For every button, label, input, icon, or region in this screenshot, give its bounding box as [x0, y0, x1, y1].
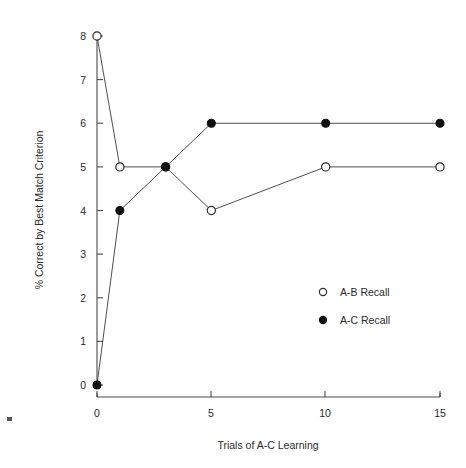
y-tick-label-1: 1 — [80, 335, 86, 347]
y-tick-label-3: 3 — [80, 248, 86, 260]
x-tick-label-0: 0 — [94, 407, 100, 419]
y-tick-label-4: 4 — [80, 205, 86, 217]
x-axis-title: Trials of A-C Learning — [217, 439, 318, 451]
y-axis-title: % Correct by Best Match Criterion — [33, 130, 45, 289]
figure-background — [0, 0, 466, 468]
data-point-marker — [436, 163, 444, 171]
legend-marker-filled-circle — [319, 316, 326, 323]
data-point-marker — [207, 206, 215, 214]
data-point-marker — [93, 32, 101, 40]
y-tick-label-7: 7 — [80, 74, 86, 86]
data-point-marker — [322, 119, 330, 127]
y-tick-label-2: 2 — [80, 292, 86, 304]
data-point-marker — [116, 207, 124, 215]
legend-label-a-c-recall: A-C Recall — [340, 314, 390, 326]
legend-label-a-b-recall: A-B Recall — [340, 286, 390, 298]
y-tick-label-6: 6 — [80, 117, 86, 129]
x-tick-label-15: 15 — [434, 407, 446, 419]
x-tick-label-10: 10 — [319, 407, 331, 419]
y-tick-label-5: 5 — [80, 161, 86, 173]
data-point-marker — [436, 119, 444, 127]
y-tick-label-0: 0 — [80, 379, 86, 391]
scan-speck-artifact — [7, 417, 12, 421]
data-point-marker — [162, 163, 170, 171]
data-point-marker — [322, 163, 330, 171]
data-point-marker — [93, 381, 101, 389]
legend-marker-open-circle — [319, 288, 326, 295]
data-point-marker — [207, 119, 215, 127]
data-point-marker — [116, 163, 124, 171]
y-tick-label-8: 8 — [80, 30, 86, 42]
x-tick-label-5: 5 — [208, 407, 214, 419]
chart-figure: 0 1 2 3 4 5 6 7 8 % Correct by Best Matc… — [0, 0, 466, 468]
